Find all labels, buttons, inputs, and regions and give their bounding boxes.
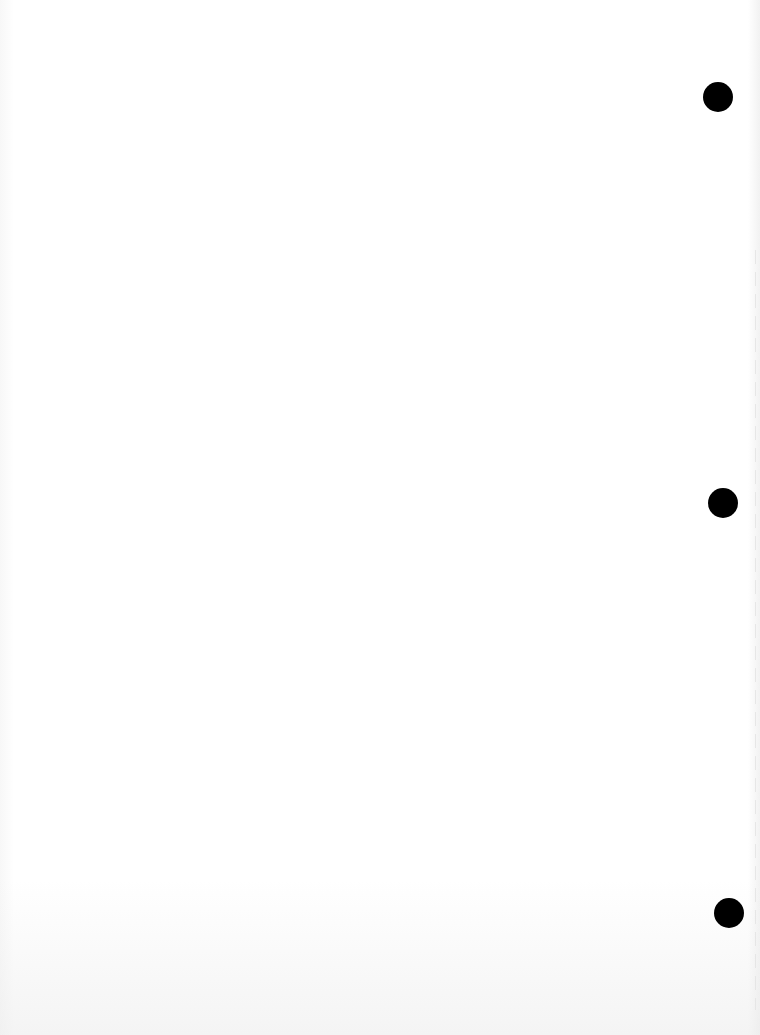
scanned-blank-page — [0, 0, 760, 1035]
hole-punch-top — [703, 82, 733, 112]
hole-punch-bottom — [714, 898, 744, 928]
hole-punch-middle — [708, 488, 738, 518]
page-edge-shadow — [755, 250, 756, 1010]
